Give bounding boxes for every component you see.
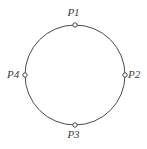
point-marker-p2[interactable]	[123, 73, 127, 77]
point-marker-p1[interactable]	[73, 23, 77, 27]
point-marker-p3[interactable]	[73, 123, 77, 127]
circle-diagram-figure: P1 P2 P3 P4	[0, 0, 147, 149]
point-label-p3: P3	[0, 129, 147, 140]
point-label-p4: P4	[7, 69, 19, 80]
circle-diagram-canvas	[0, 0, 147, 149]
point-marker-p4[interactable]	[23, 73, 27, 77]
point-label-p1: P1	[0, 7, 147, 18]
main-circle	[25, 25, 125, 125]
point-label-p2: P2	[128, 69, 140, 80]
